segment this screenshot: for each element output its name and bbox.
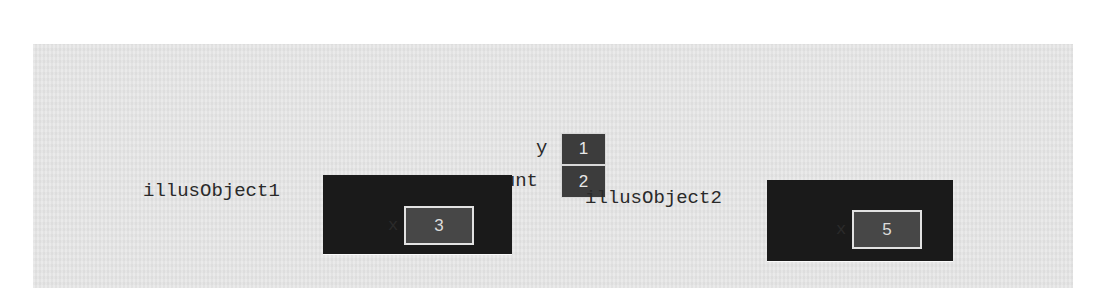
object-label-illusObject2: illusObject2 <box>585 189 722 208</box>
variable-label-y: y <box>536 139 547 158</box>
object-label-illusObject1: illusObject1 <box>143 182 280 201</box>
field-label-x-object2: x <box>836 221 846 238</box>
field-box-x-object2: 5 <box>852 210 922 249</box>
variable-cell-y: 1 <box>562 134 605 164</box>
field-label-x-object1: x <box>388 217 398 234</box>
field-box-x-object1: 3 <box>404 206 474 245</box>
